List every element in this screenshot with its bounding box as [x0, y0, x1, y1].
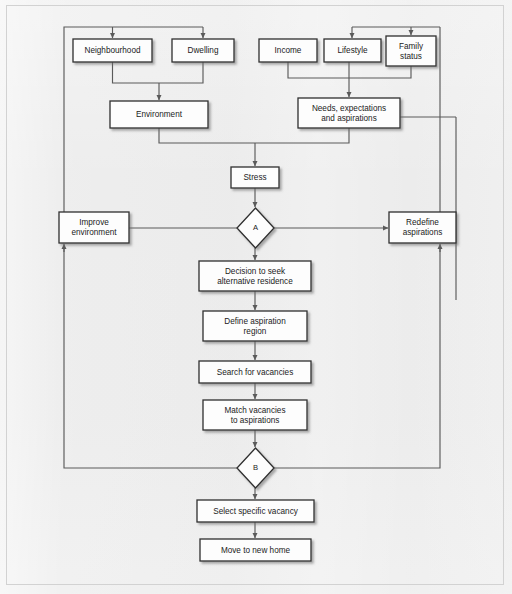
node-improve-environment-label-line2: environment	[71, 228, 117, 237]
node-redefine-aspirations-label-line1: Redefine	[406, 218, 439, 227]
node-define-region[interactable]: Define aspiration region	[203, 311, 307, 341]
node-layer: Neighbourhood Dwelling Income Lifestyle …	[59, 36, 456, 561]
node-neighbourhood-label: Neighbourhood	[85, 46, 141, 55]
edge-needs-down	[255, 128, 349, 143]
node-dwelling-label: Dwelling	[188, 46, 219, 55]
node-decision-to-seek-label-line1: Decision to seek	[225, 267, 286, 276]
node-search-vacancies-label: Search for vacancies	[217, 368, 293, 377]
node-redefine-aspirations-label-line2: aspirations	[403, 228, 443, 237]
node-income-label: Income	[275, 46, 302, 55]
node-match-vacancies[interactable]: Match vacancies to aspirations	[203, 400, 307, 430]
node-decision-b[interactable]: B	[237, 448, 274, 488]
node-decision-to-seek-label-line2: alternative residence	[217, 277, 293, 286]
edge-neighbourhood-down	[113, 62, 160, 83]
node-match-vacancies-label-line1: Match vacancies	[225, 406, 286, 415]
node-improve-environment-label-line1: Improve	[79, 218, 109, 227]
node-redefine-aspirations[interactable]: Redefine aspirations	[389, 212, 456, 243]
node-family-status-label-line2: status	[400, 52, 422, 61]
node-define-region-label-line1: Define aspiration	[224, 317, 286, 326]
node-decision-a[interactable]: A	[237, 208, 274, 248]
node-environment-label: Environment	[136, 110, 183, 119]
node-stress[interactable]: Stress	[231, 167, 279, 188]
node-decision-to-seek[interactable]: Decision to seek alternative residence	[199, 261, 311, 291]
node-search-vacancies[interactable]: Search for vacancies	[199, 361, 311, 383]
node-select-vacancy[interactable]: Select specific vacancy	[197, 500, 314, 522]
edge-family-status-down	[349, 66, 411, 78]
node-define-region-label-line2: region	[244, 327, 267, 336]
node-improve-environment[interactable]: Improve environment	[59, 212, 129, 243]
edge-income-down	[288, 62, 349, 78]
edge-environment-down	[159, 128, 255, 143]
node-match-vacancies-label-line2: to aspirations	[231, 416, 280, 425]
node-family-status[interactable]: Family status	[386, 36, 436, 66]
node-lifestyle-label: Lifestyle	[337, 46, 367, 55]
node-select-vacancy-label: Select specific vacancy	[213, 507, 299, 516]
node-move-home[interactable]: Move to new home	[200, 539, 311, 561]
node-family-status-label-line1: Family	[399, 42, 424, 51]
node-neighbourhood[interactable]: Neighbourhood	[73, 39, 152, 62]
node-move-home-label: Move to new home	[221, 546, 291, 555]
flowchart-svg: Neighbourhood Dwelling Income Lifestyle …	[0, 0, 512, 594]
node-needs[interactable]: Needs, expectations and aspirations	[298, 98, 400, 128]
node-lifestyle[interactable]: Lifestyle	[324, 39, 381, 62]
node-stress-label: Stress	[243, 173, 266, 182]
edge-dwelling-down	[159, 62, 203, 83]
node-needs-label-line1: Needs, expectations	[312, 104, 386, 113]
figure-canvas: Neighbourhood Dwelling Income Lifestyle …	[0, 0, 512, 594]
node-decision-b-label: B	[253, 463, 258, 472]
node-needs-label-line2: and aspirations	[321, 114, 377, 123]
node-dwelling[interactable]: Dwelling	[172, 39, 234, 62]
node-environment[interactable]: Environment	[110, 101, 208, 128]
node-income[interactable]: Income	[259, 39, 317, 62]
